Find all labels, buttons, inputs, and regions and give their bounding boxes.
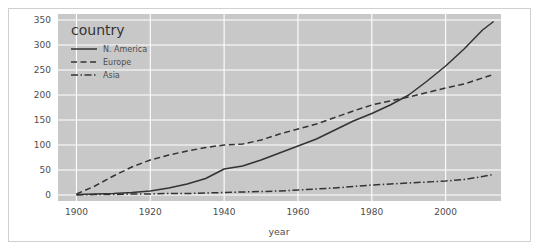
x-axis-title: year [268,226,289,237]
y-axis-tick-labels: 050100150200250300350 [34,15,51,200]
x-tick-label: 1900 [65,207,88,217]
x-tick-label: 1980 [360,207,383,217]
y-tick-label: 350 [34,15,51,25]
x-tick-label: 2000 [434,207,457,217]
plot-panel [58,14,501,201]
line-chart: 050100150200250300350 190019201940196019… [9,9,530,241]
legend-label: N. America [103,45,147,54]
x-tick-label: 1940 [213,207,236,217]
x-axis-tick-labels: 190019201940196019802000 [65,207,457,217]
chart-frame: 050100150200250300350 190019201940196019… [8,8,531,242]
y-tick-label: 300 [34,40,51,50]
x-tick-label: 1960 [287,207,310,217]
legend-label: Asia [103,71,120,80]
legend-label: Europe [103,58,131,67]
y-tick-label: 250 [34,65,51,75]
y-tick-label: 200 [34,90,51,100]
legend-title: country [71,22,125,38]
x-tick-label: 1920 [139,207,162,217]
y-tick-label: 50 [40,165,52,175]
y-tick-label: 0 [45,190,51,200]
chart-figure: 050100150200250300350 190019201940196019… [0,0,540,251]
y-tick-label: 100 [34,140,51,150]
y-tick-label: 150 [34,115,51,125]
